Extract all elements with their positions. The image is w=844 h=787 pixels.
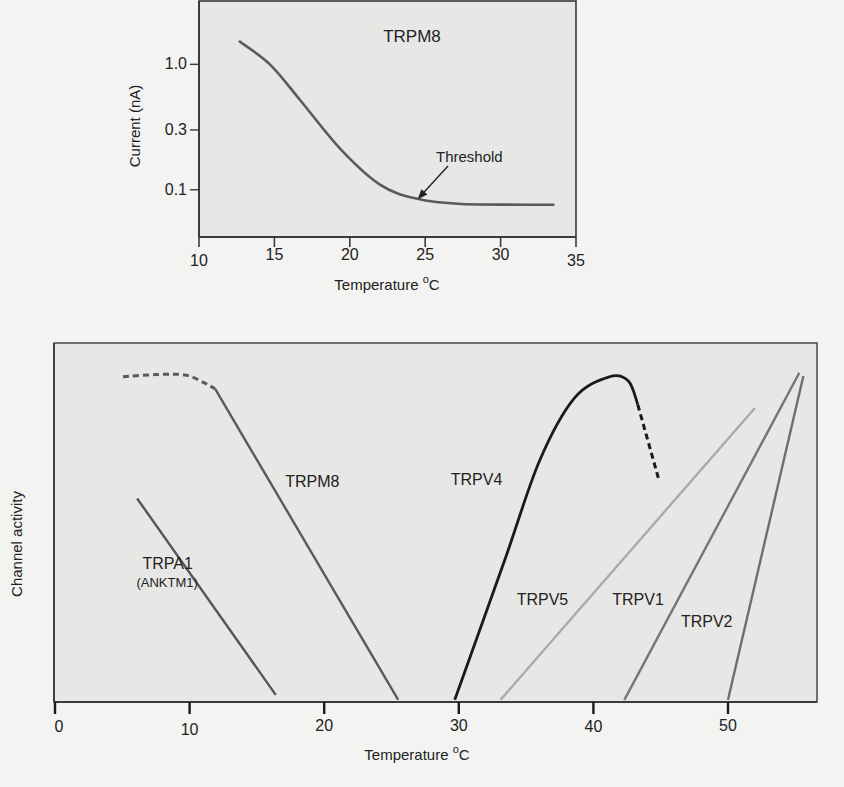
chart-trpm8-current: TRPM8 101520253035 1.00.30.1 Temperature… — [126, 1, 585, 293]
x-tick-label: 20 — [341, 246, 359, 263]
series-sublabel-trpa1: (ANKTM1) — [136, 575, 197, 590]
y-axis-label: Current (nA) — [126, 85, 143, 168]
x-tick-label: 30 — [450, 717, 468, 734]
x-ticks: 101520253035 — [190, 237, 585, 269]
y-tick-label: 1.0 — [165, 55, 187, 72]
series-label-trpv2: TRPV2 — [681, 613, 733, 630]
y-tick-label: 0.1 — [165, 181, 187, 198]
x-tick-label: 50 — [719, 717, 737, 734]
chart-title: TRPM8 — [383, 27, 441, 46]
x-tick-label: 40 — [585, 718, 603, 735]
series-label-trpv1: TRPV1 — [612, 591, 664, 608]
x-ticks: 01020304050 — [55, 702, 737, 738]
x-tick-label: 20 — [315, 717, 333, 734]
x-tick-label: 10 — [181, 721, 199, 738]
x-axis-label: Temperature oC — [334, 273, 440, 293]
plot-area — [54, 343, 817, 702]
x-tick-label: 15 — [266, 246, 284, 263]
series-label-trpa1: TRPA1 — [142, 555, 192, 572]
threshold-label: Threshold — [436, 148, 503, 165]
series-label-trpv5: TRPV5 — [517, 591, 569, 608]
x-tick-label: 10 — [190, 252, 208, 269]
x-axis-label: Temperature oC — [364, 743, 470, 763]
x-tick-label: 35 — [567, 252, 585, 269]
x-tick-label: 0 — [55, 718, 64, 735]
series-label-trpv4: TRPV4 — [451, 471, 503, 488]
y-axis-label: Channel activity — [8, 491, 25, 597]
x-tick-label: 30 — [492, 246, 510, 263]
y-ticks: 1.00.30.1 — [165, 55, 199, 197]
x-tick-label: 25 — [416, 246, 434, 263]
chart-channel-activity: 01020304050 Temperature oC Channel activ… — [8, 343, 817, 763]
y-tick-label: 0.3 — [165, 121, 187, 138]
series-label-trpm8: TRPM8 — [285, 473, 339, 490]
figure: TRPM8 101520253035 1.00.30.1 Temperature… — [0, 0, 844, 787]
